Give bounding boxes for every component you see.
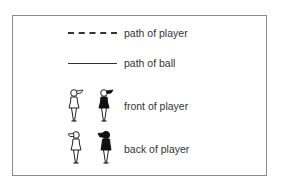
legend-box: path of player path of ball front of pla… <box>12 15 267 176</box>
player-back-outline-icon <box>67 130 85 166</box>
dashed-line-icon <box>68 32 117 34</box>
legend-label: back of player <box>124 142 189 156</box>
legend-label: path of player <box>124 26 188 40</box>
player-front-filled-icon <box>97 88 115 124</box>
player-front-outline-icon <box>67 88 85 124</box>
legend-row-front-of-player: front of player <box>13 88 266 126</box>
player-back-filled-icon <box>97 130 115 166</box>
legend-label: path of ball <box>124 56 175 70</box>
legend-label: front of player <box>124 99 188 113</box>
legend-row-back-of-player: back of player <box>13 130 266 168</box>
legend-row-path-of-ball: path of ball <box>13 56 266 76</box>
legend-row-path-of-player: path of player <box>13 26 266 46</box>
solid-line-icon <box>68 63 117 64</box>
